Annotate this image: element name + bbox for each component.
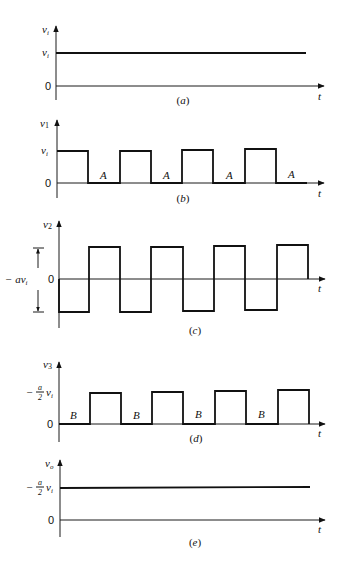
region-label-a: A	[225, 169, 233, 181]
caption-e: (e)	[189, 536, 202, 549]
region-label-b: B	[133, 409, 140, 421]
svg-text:vi: vi	[46, 481, 53, 495]
level-label: vi	[41, 144, 48, 158]
caption-b: (b)	[177, 192, 190, 205]
svg-text:a: a	[38, 478, 42, 487]
waveform-v3	[59, 390, 309, 424]
waveform-vo	[60, 487, 310, 488]
x-axis-label: t	[318, 90, 322, 102]
zero-label: 0	[47, 418, 53, 430]
x-axis-label: t	[318, 523, 322, 535]
amplitude-label: − avi	[5, 273, 28, 287]
y-axis-label: v2	[43, 218, 52, 231]
caption-c: (c)	[189, 324, 202, 337]
waveform-figure: vi vi 0 t (a) v1 vi 0 A A A A t (b) − av…	[0, 0, 342, 568]
region-label-b: B	[195, 408, 202, 420]
svg-text:2: 2	[38, 393, 42, 402]
y-axis-label: vo	[45, 457, 54, 471]
caption-a: (a)	[177, 94, 190, 107]
zero-label: 0	[45, 80, 51, 92]
panel-b: v1 vi 0 A A A A t (b)	[40, 117, 324, 205]
svg-text:vi: vi	[46, 386, 53, 400]
svg-text:−: −	[26, 386, 33, 398]
level-label: − a 2 vi	[26, 478, 53, 497]
y-axis-label: vi	[42, 23, 49, 37]
x-axis-label: t	[318, 282, 322, 294]
zero-label: 0	[45, 177, 51, 189]
level-label: vi	[42, 46, 49, 60]
region-label-a: A	[162, 169, 170, 181]
region-label-b: B	[258, 408, 265, 420]
x-axis-label: t	[318, 187, 322, 199]
y-axis-label: v1	[40, 117, 49, 130]
panel-d: v3 − a 2 vi 0 B B B B t (d)	[26, 358, 325, 445]
x-axis-label: t	[318, 427, 322, 439]
zero-label: 0	[48, 514, 54, 526]
zero-label: 0	[48, 273, 54, 285]
caption-d: (d)	[190, 432, 203, 445]
y-axis-label: v3	[43, 358, 52, 371]
waveform-v1	[57, 149, 307, 183]
region-label-a: A	[99, 169, 107, 181]
level-label: − a 2 vi	[26, 383, 53, 402]
panel-a: vi vi 0 t (a)	[42, 23, 324, 107]
svg-text:2: 2	[38, 488, 42, 497]
panel-c: − avi v2 0 t (c)	[5, 218, 325, 337]
region-label-b: B	[70, 409, 77, 421]
panel-e: vo − a 2 vi 0 t (e)	[26, 457, 325, 549]
svg-text:a: a	[38, 383, 42, 392]
svg-text:−: −	[26, 481, 33, 493]
region-label-a: A	[287, 168, 295, 180]
